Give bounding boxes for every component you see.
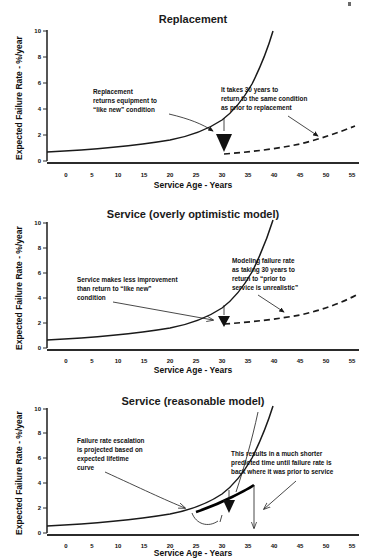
x-tick-45: 45 xyxy=(297,543,304,549)
x-tick-30: 30 xyxy=(219,172,226,178)
x-tick-40: 40 xyxy=(271,543,278,549)
y-tick-10: 10 xyxy=(34,220,41,226)
x-tick-30: 30 xyxy=(219,543,226,549)
service-improvement-note-line-2: than return to “like new” xyxy=(77,285,152,292)
x-tick-35: 35 xyxy=(245,172,252,178)
service-improvement-note-line-1: Service makes less improvement xyxy=(77,276,178,284)
x-tick-35: 35 xyxy=(245,358,252,364)
x-tick-40: 40 xyxy=(271,358,278,364)
x-tick-30: 30 xyxy=(219,358,226,364)
x-tick-25: 25 xyxy=(193,543,200,549)
replacement-note-line-2: returns equipment to xyxy=(93,97,157,105)
unrealistic-model-note-line-3: return to “prior to xyxy=(232,275,286,283)
three-panel-chart-svg: Replacement Expected Failure Rate - %/ye… xyxy=(0,0,376,558)
unrealistic-model-note-line-2: as taking 30 years to xyxy=(232,266,295,274)
service-improvement-note-line-3: condition xyxy=(77,294,106,301)
x-tick-50: 50 xyxy=(323,172,330,178)
x-axis-label: Service Age - Years xyxy=(154,548,233,558)
y-axis-label: Expected Failure Rate - %/year xyxy=(14,226,24,350)
unrealistic-model-note-line-1: Modeling failure rate xyxy=(232,257,295,265)
x-tick-45: 45 xyxy=(297,358,304,364)
x-tick-40: 40 xyxy=(271,172,278,178)
x-tick-25: 25 xyxy=(193,172,200,178)
failure-rate-figure-sheet: Replacement Expected Failure Rate - %/ye… xyxy=(0,0,376,558)
x-axis-label: Service Age - Years xyxy=(154,365,233,375)
recovery-note-line-1: It takes 30 years to xyxy=(221,86,278,94)
recovery-note-line-3: as prior to replacement xyxy=(221,104,293,112)
x-tick-55: 55 xyxy=(349,543,356,549)
x-tick-50: 50 xyxy=(323,358,330,364)
x-tick-10: 10 xyxy=(115,172,122,178)
replacement-note-line-1: Replacement xyxy=(93,88,134,96)
shorter-time-note-line-3: back where it was prior to service xyxy=(231,468,334,476)
escalation-note-line-3: expected lifetime xyxy=(77,455,129,463)
chart-title: Service (overly optimistic model) xyxy=(107,208,280,220)
x-tick-15: 15 xyxy=(141,358,148,364)
x-tick-25: 25 xyxy=(193,358,200,364)
recovery-note-line-2: return to the same condition xyxy=(221,95,307,102)
shorter-time-note-line-1: This results in a much shorter xyxy=(231,450,323,457)
unrealistic-model-note-line-4: service is unrealistic” xyxy=(232,284,298,291)
escalation-note-line-4: curve xyxy=(77,464,94,471)
x-tick-15: 15 xyxy=(141,543,148,549)
y-tick-10: 10 xyxy=(34,406,41,412)
x-tick-10: 10 xyxy=(115,358,122,364)
y-tick-10: 10 xyxy=(34,28,41,34)
x-tick-20: 20 xyxy=(167,358,174,364)
chart-title: Replacement xyxy=(159,13,228,25)
y-axis-label: Expected Failure Rate - %/year xyxy=(14,36,24,160)
scan-artifact-speck xyxy=(348,2,351,6)
x-tick-20: 20 xyxy=(167,543,174,549)
x-tick-35: 35 xyxy=(245,543,252,549)
escalation-note-line-2: is projected based on xyxy=(77,446,143,454)
replacement-note-line-3: “like new” condition xyxy=(93,106,155,113)
x-tick-50: 50 xyxy=(323,543,330,549)
escalation-note-line-1: Failure rate escalation xyxy=(77,437,145,444)
y-axis-label: Expected Failure Rate - %/year xyxy=(14,411,24,535)
chart-title: Service (reasonable model) xyxy=(121,395,264,407)
x-tick-15: 15 xyxy=(141,172,148,178)
x-tick-55: 55 xyxy=(349,358,356,364)
x-axis-label: Service Age - Years xyxy=(154,180,233,190)
x-tick-20: 20 xyxy=(167,172,174,178)
x-tick-45: 45 xyxy=(297,172,304,178)
x-tick-55: 55 xyxy=(349,172,356,178)
x-tick-10: 10 xyxy=(115,543,122,549)
